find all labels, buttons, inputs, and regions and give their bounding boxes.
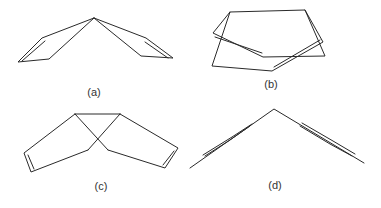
figure-canvas xyxy=(0,0,381,208)
panel-a-structure xyxy=(18,18,173,62)
panel-c-label: (c) xyxy=(95,181,108,192)
panel-d-structure xyxy=(190,109,364,168)
panel-a-label: (a) xyxy=(87,87,100,98)
panel-b-structure xyxy=(212,10,325,71)
panel-b-label: (b) xyxy=(264,79,277,90)
panel-d-label: (d) xyxy=(268,180,281,191)
panel-c-structure xyxy=(24,114,178,172)
